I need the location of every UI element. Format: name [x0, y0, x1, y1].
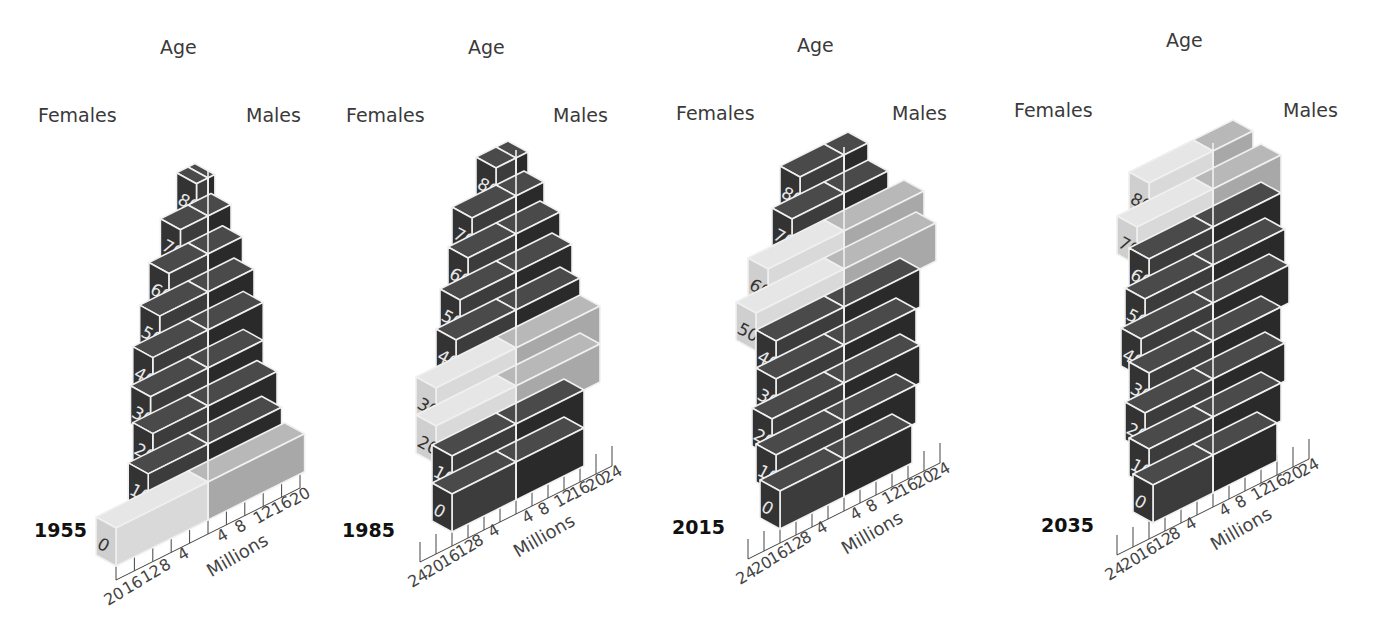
females-label: Females	[1014, 99, 1093, 121]
svg-text:8: 8	[535, 498, 553, 520]
age-axis-label: Age	[797, 34, 834, 56]
year-label: 1985	[342, 519, 395, 541]
svg-text:8: 8	[1232, 491, 1250, 513]
males-label: Males	[892, 102, 947, 124]
svg-text:4: 4	[813, 517, 831, 539]
svg-text:4: 4	[174, 543, 192, 565]
svg-text:4: 4	[519, 506, 537, 528]
year-label: 1955	[34, 519, 87, 541]
females-label: Females	[38, 104, 117, 126]
age-axis-label: Age	[1166, 29, 1203, 51]
males-label: Males	[1283, 99, 1338, 121]
females-label: Females	[676, 102, 755, 124]
year-label: 2015	[672, 516, 725, 538]
males-label: Males	[246, 104, 301, 126]
year-label: 2035	[1041, 514, 1094, 536]
svg-text:4: 4	[1216, 499, 1234, 521]
svg-text:4: 4	[485, 520, 503, 542]
svg-text:4: 4	[847, 503, 865, 525]
age-axis-label: Age	[468, 36, 505, 58]
age-axis-label: Age	[160, 36, 197, 58]
pyramid-panel-2035: 24201612844812162024Millions80+706050403…	[1000, 0, 1378, 624]
millions-label: Millions	[203, 529, 272, 581]
pyramid-panel-1955: 2016128448121620Millions80+7060504030201…	[0, 0, 340, 624]
svg-text:4: 4	[213, 525, 231, 547]
females-label: Females	[346, 104, 425, 126]
svg-text:4: 4	[1182, 513, 1200, 535]
males-label: Males	[553, 104, 608, 126]
svg-text:8: 8	[231, 516, 249, 538]
pyramid-panel-1985: 24201612844812162024Millions80+706050403…	[330, 0, 670, 624]
pyramid-panel-2015: 24201612844812162024Millions80+706050403…	[660, 0, 1000, 624]
svg-text:8: 8	[863, 495, 881, 517]
